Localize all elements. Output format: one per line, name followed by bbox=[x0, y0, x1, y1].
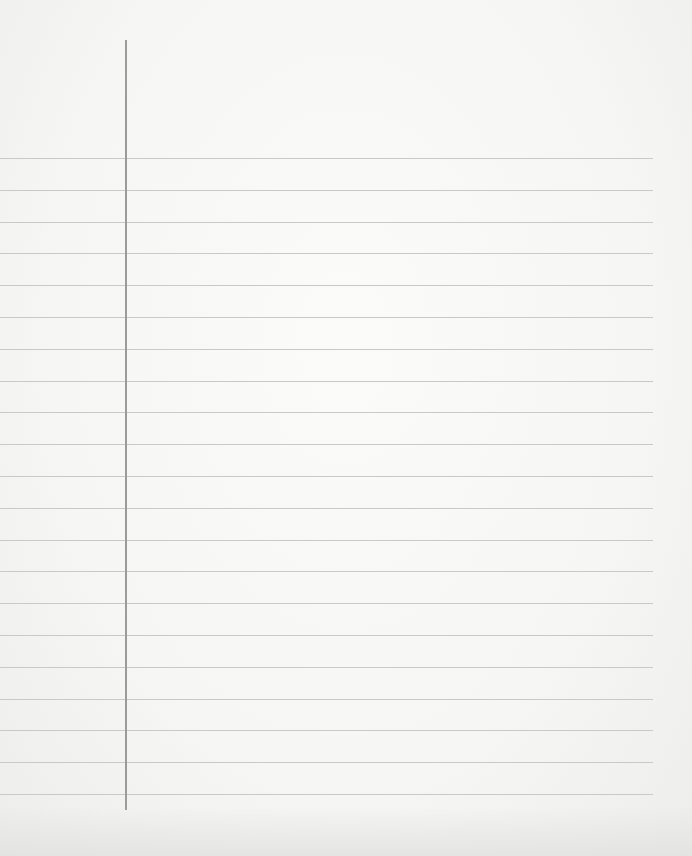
ruled-line bbox=[0, 571, 653, 572]
ruled-line bbox=[0, 317, 653, 318]
lined-paper bbox=[0, 0, 692, 856]
ruled-line bbox=[0, 285, 653, 286]
ruled-line bbox=[0, 699, 653, 700]
ruled-line bbox=[0, 253, 653, 254]
ruled-line bbox=[0, 635, 653, 636]
ruled-line bbox=[0, 381, 653, 382]
ruled-line bbox=[0, 190, 653, 191]
ruled-line bbox=[0, 444, 653, 445]
ruled-line bbox=[0, 412, 653, 413]
ruled-line bbox=[0, 603, 653, 604]
ruled-line bbox=[0, 730, 653, 731]
margin-line bbox=[125, 40, 127, 810]
ruled-line bbox=[0, 762, 653, 763]
ruled-line bbox=[0, 476, 653, 477]
ruled-line bbox=[0, 540, 653, 541]
ruled-line bbox=[0, 794, 653, 795]
ruled-line bbox=[0, 158, 653, 159]
ruled-line bbox=[0, 508, 653, 509]
ruled-line bbox=[0, 667, 653, 668]
ruled-line bbox=[0, 349, 653, 350]
ruled-line bbox=[0, 222, 653, 223]
